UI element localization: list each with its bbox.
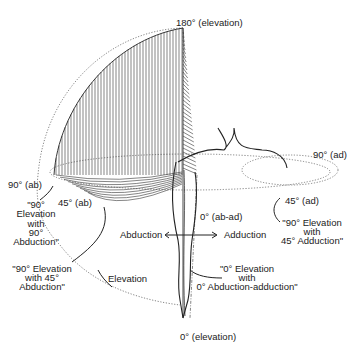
sagittal-plane-hatching [183, 28, 197, 174]
label-90-ad: 90° (ad) [313, 149, 347, 160]
callout-arrow-90-45ab [72, 207, 105, 262]
elevation-plane-hatching [56, 28, 182, 175]
callout-arrow-90-90 [40, 186, 53, 200]
callout-90-elevation-90-abduction: "90° Elevation with 90° Abduction" [13, 199, 59, 247]
shoulder-motion-diagram: 180° (elevation) 0° (elevation) 90° (ab)… [0, 0, 353, 351]
label-90-ab: 90° (ab) [8, 179, 42, 190]
label-45-ab: 45° (ab) [58, 197, 92, 208]
arm-inner-line [184, 170, 185, 316]
svg-text:Abduction": Abduction" [19, 281, 65, 292]
callout-90-elevation-45-abduction: "90° Elevation with 45° Abduction" [12, 263, 71, 292]
label-0-ab-ad: 0° (ab-ad) [200, 211, 242, 222]
label-adduction: Adduction [224, 229, 266, 240]
label-elevation: Elevation [108, 273, 147, 284]
svg-text:45° Adduction": 45° Adduction" [281, 235, 343, 246]
label-180-elevation: 180° (elevation) [176, 17, 243, 28]
callout-arrow-90-45ad [274, 198, 280, 222]
svg-text:0° Abduction-adduction": 0° Abduction-adduction" [196, 281, 297, 292]
hatch-line [88, 184, 182, 201]
svg-text:Abduction": Abduction" [13, 236, 59, 247]
elevation-plane-boundary [54, 28, 183, 175]
label-0-elevation: 0° (elevation) [180, 331, 236, 342]
label-abduction: Abduction [120, 229, 162, 240]
torso-outline [178, 128, 287, 168]
callout-arrow-0-0 [190, 270, 222, 278]
callout-90-elevation-45-adduction: "90° Elevation with 45° Adduction" [281, 217, 343, 246]
label-45-ad: 45° (ad) [285, 195, 319, 206]
